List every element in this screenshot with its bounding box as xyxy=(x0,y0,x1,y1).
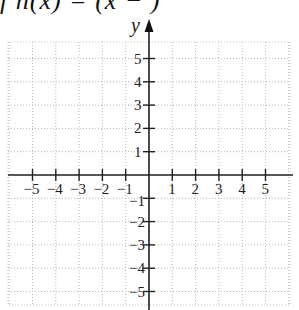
x-tick-label: −5 xyxy=(24,181,40,197)
x-tick-label: 4 xyxy=(238,181,246,197)
x-tick-label: 2 xyxy=(192,181,200,197)
x-tick-label: −3 xyxy=(70,181,86,197)
y-tick-label: 4 xyxy=(134,74,142,90)
y-tick-label: −4 xyxy=(129,260,145,276)
y-axis-label: y xyxy=(129,14,140,37)
x-tick-label: 1 xyxy=(168,181,176,197)
y-tick-label: 5 xyxy=(134,51,142,67)
y-tick-label: −5 xyxy=(129,284,145,300)
y-tick-label: 2 xyxy=(134,120,142,136)
y-tick-label: 1 xyxy=(134,144,142,160)
x-tick-label: −2 xyxy=(93,181,109,197)
y-axis-arrow-icon xyxy=(145,19,154,32)
x-tick-label: −4 xyxy=(47,181,63,197)
x-tick-label: 3 xyxy=(215,181,223,197)
coordinate-plane: y−5−4−3−2−112345−5−4−3−2−112345 xyxy=(0,0,299,310)
y-tick-label: −2 xyxy=(129,214,145,230)
y-tick-label: −3 xyxy=(129,237,145,253)
x-tick-label: 5 xyxy=(262,181,270,197)
y-tick-label: −1 xyxy=(129,193,145,209)
y-tick-label: 3 xyxy=(134,97,142,113)
